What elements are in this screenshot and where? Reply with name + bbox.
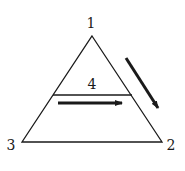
ternary-diagram: 1 2 3 4 xyxy=(0,0,185,171)
diagram-canvas: 1 2 3 4 xyxy=(0,0,185,171)
vertex-3-label: 3 xyxy=(7,137,16,153)
vertex-2-label: 2 xyxy=(167,137,176,153)
line-4-label: 4 xyxy=(88,76,97,92)
vertex-1-label: 1 xyxy=(87,15,96,31)
diagonal-arrow xyxy=(126,58,158,108)
